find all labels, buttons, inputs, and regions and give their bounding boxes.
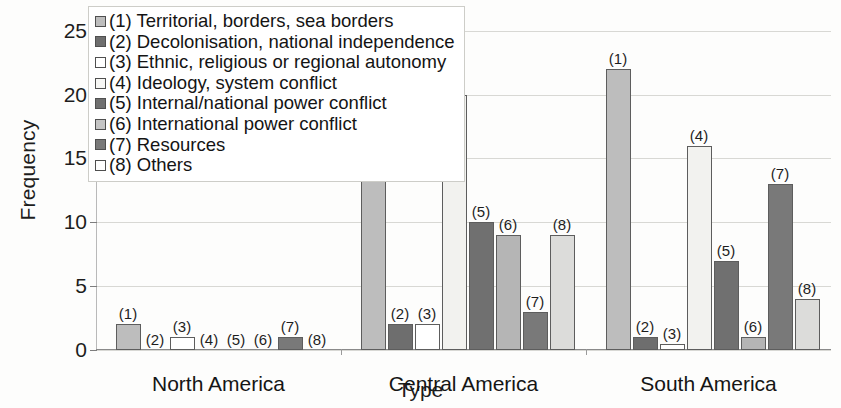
bar-value-label: (7) (771, 165, 789, 182)
legend-swatch-icon (95, 57, 106, 68)
category-separator-tick (341, 349, 342, 355)
bar-value-label: (5) (227, 331, 245, 348)
y-tick-label: 25 (64, 19, 87, 43)
bar-value-label: (4) (200, 331, 218, 348)
bar-value-label: (7) (526, 293, 544, 310)
y-tick-mark (90, 350, 97, 351)
bar (469, 222, 494, 350)
legend-item: (3) Ethnic, religious or regional autono… (95, 52, 455, 73)
legend-item-label: (5) Internal/national power conflict (109, 94, 387, 113)
category-label: North America (152, 372, 285, 396)
bar (278, 337, 303, 350)
bar-value-label: (8) (553, 216, 571, 233)
bar-value-label: (8) (308, 331, 326, 348)
bar-value-label: (3) (418, 305, 436, 322)
bar-value-label: (2) (146, 331, 164, 348)
bar-value-label: (6) (254, 331, 272, 348)
legend-swatch-icon (95, 160, 106, 171)
y-tick-label: 15 (64, 146, 87, 170)
bar (687, 146, 712, 350)
category-label: Central America (389, 372, 538, 396)
bar-value-label: (2) (636, 318, 654, 335)
bar-value-label: (1) (119, 305, 137, 322)
legend-item: (4) Ideology, system conflict (95, 73, 455, 94)
y-tick-label: 0 (75, 338, 87, 362)
bar-value-label: (8) (798, 280, 816, 297)
legend-swatch-icon (95, 98, 106, 109)
category-label: South America (640, 372, 777, 396)
bar (768, 184, 793, 350)
bar (523, 312, 548, 350)
y-tick-label: 10 (64, 210, 87, 234)
legend-item-label: (3) Ethnic, religious or regional autono… (109, 53, 446, 72)
bar (170, 337, 195, 350)
bar-value-label: (5) (472, 203, 490, 220)
bar (361, 171, 386, 350)
y-tick-label: 5 (75, 274, 87, 298)
bar-value-label: (3) (663, 325, 681, 342)
bar (606, 69, 631, 350)
legend-item-label: (8) Others (109, 156, 192, 175)
bar-value-label: (7) (281, 318, 299, 335)
legend-item: (2) Decolonisation, national independenc… (95, 32, 455, 53)
legend-item: (5) Internal/national power conflict (95, 93, 455, 114)
legend-swatch-icon (95, 78, 106, 89)
legend-item: (1) Territorial, borders, sea borders (95, 11, 455, 32)
bar-value-label: (2) (391, 305, 409, 322)
bar (496, 235, 521, 350)
bar (116, 324, 141, 350)
legend-item: (8) Others (95, 155, 455, 176)
bar (388, 324, 413, 350)
legend-swatch-icon (95, 139, 106, 150)
legend-item-label: (2) Decolonisation, national independenc… (109, 33, 455, 52)
bar-value-label: (1) (609, 50, 627, 67)
legend-swatch-icon (95, 119, 106, 130)
bar (550, 235, 575, 350)
y-tick-label: 20 (64, 83, 87, 107)
bar-value-label: (4) (690, 127, 708, 144)
legend-item-label: (6) International power conflict (109, 115, 357, 134)
bar (714, 261, 739, 350)
bar (415, 324, 440, 350)
bar (660, 344, 685, 350)
bar-value-label: (6) (499, 216, 517, 233)
bar (741, 337, 766, 350)
category-separator-tick (586, 349, 587, 355)
legend-item-label: (4) Ideology, system conflict (109, 74, 337, 93)
legend-item: (6) International power conflict (95, 114, 455, 135)
legend-item-label: (1) Territorial, borders, sea borders (109, 12, 393, 31)
bar-value-label: (3) (173, 318, 191, 335)
legend-swatch-icon (95, 16, 106, 27)
bar-value-label: (5) (717, 242, 735, 259)
chart-legend: (1) Territorial, borders, sea borders(2)… (88, 6, 465, 182)
bar (633, 337, 658, 350)
gridline (96, 350, 831, 351)
y-axis-title: Frequency (16, 70, 40, 270)
bar (795, 299, 820, 350)
legend-item-label: (7) Resources (109, 136, 225, 155)
legend-item: (7) Resources (95, 135, 455, 156)
bar-value-label: (6) (744, 318, 762, 335)
legend-swatch-icon (95, 36, 106, 47)
chart-screenshot: Frequency Type 0510152025 (1)(2)(3)(4)(5… (0, 0, 841, 408)
